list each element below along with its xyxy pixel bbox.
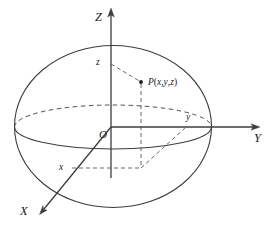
point-p-label: P(x,y,z) <box>148 78 177 88</box>
x-axis-label: X <box>20 205 28 218</box>
point-p-marker <box>139 80 143 84</box>
equator-front-solid-arc <box>15 127 212 149</box>
equator-back-dashed-arc <box>15 105 212 127</box>
z-coordinate-label: z <box>96 58 100 68</box>
point-p-close-paren: ) <box>174 77 177 87</box>
z-axis-label: Z <box>95 11 102 24</box>
y-axis-label: Y <box>254 132 261 145</box>
z-to-point-dashed-guide <box>111 64 141 82</box>
x-coordinate-label: x <box>59 163 63 173</box>
spherical-coordinate-figure: Z Y X O z x y P(x,y,z) <box>0 0 269 226</box>
origin-label: O <box>99 129 107 140</box>
y-coordinate-label: y <box>186 113 190 123</box>
figure-canvas <box>0 0 269 226</box>
